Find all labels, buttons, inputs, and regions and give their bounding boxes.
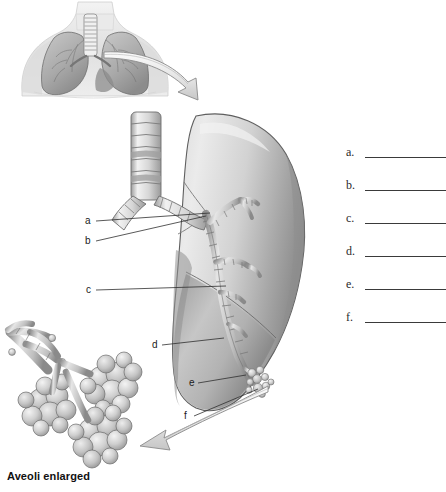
answer-rule-a[interactable] [365, 157, 446, 158]
answer-letter-e: e. [346, 278, 354, 290]
worksheet-canvas: a b c d e f a. b. c. d. e. f. Aveoli [0, 0, 446, 492]
answer-rule-d[interactable] [365, 256, 446, 257]
answer-letter-f: f. [346, 311, 353, 323]
answer-row-b[interactable]: b. [343, 179, 446, 212]
figure-label-c: c [86, 285, 91, 295]
figure-label-b: b [85, 236, 91, 246]
figure-label-e: e [189, 378, 195, 388]
answer-rule-c[interactable] [365, 223, 446, 224]
answer-row-c[interactable]: c. [343, 212, 446, 245]
answer-letter-b: b. [346, 179, 355, 191]
answer-letter-c: c. [346, 212, 354, 224]
answer-letter-d: d. [346, 245, 355, 257]
figure-label-f: f [184, 411, 187, 421]
torso-inset-group [22, 2, 168, 98]
alveoli-enlarged-group [8, 323, 142, 468]
answer-rule-b[interactable] [365, 190, 446, 191]
answer-row-a[interactable]: a. [343, 146, 446, 179]
answer-row-e[interactable]: e. [343, 278, 446, 311]
answer-blank-list: a. b. c. d. e. f. [343, 146, 446, 344]
answer-rule-f[interactable] [365, 322, 446, 323]
answer-row-f[interactable]: f. [343, 311, 446, 344]
alveoli-caption: Aveoli enlarged [7, 470, 90, 482]
figure-label-a: a [85, 216, 91, 226]
answer-row-d[interactable]: d. [343, 245, 446, 278]
answer-letter-a: a. [346, 146, 354, 158]
answer-rule-e[interactable] [365, 289, 446, 290]
figure-label-d: d [152, 340, 158, 350]
